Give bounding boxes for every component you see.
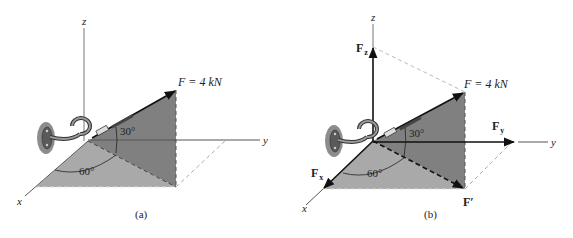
fz-label: Fz: [356, 42, 368, 54]
elevation-angle-label-b: 30°: [409, 128, 424, 139]
fy-label: Fy: [492, 120, 504, 132]
force-label-a: F = 4 kN: [178, 76, 222, 88]
x-axis-b: [306, 189, 323, 205]
y-axis-label-b: y: [551, 137, 556, 148]
x-axis-label-b: x: [302, 203, 307, 214]
panel-a: [25, 28, 260, 196]
azimuth-angle-label-b: 60°: [367, 168, 382, 179]
z-axis-label-b: z: [371, 12, 375, 23]
z-axis-label-a: z: [82, 16, 86, 27]
force-decomposition-figure: z y x F = 4 kN 30° 60° (a) z y x F = 4 k…: [0, 0, 573, 238]
caption-a: (a): [135, 209, 147, 220]
caption-b: (b): [424, 209, 437, 220]
figure-graphics: [0, 0, 573, 238]
elevation-angle-label-a: 30°: [120, 126, 135, 137]
azimuth-angle-label-a: 60°: [79, 166, 94, 177]
panel-b: [306, 24, 548, 205]
force-label-b: F = 4 kN: [464, 78, 508, 90]
fprime-label: F′: [463, 196, 474, 208]
fx-label: Fx: [311, 167, 323, 179]
y-axis-label-a: y: [263, 135, 268, 146]
x-axis-label-a: x: [17, 196, 22, 207]
